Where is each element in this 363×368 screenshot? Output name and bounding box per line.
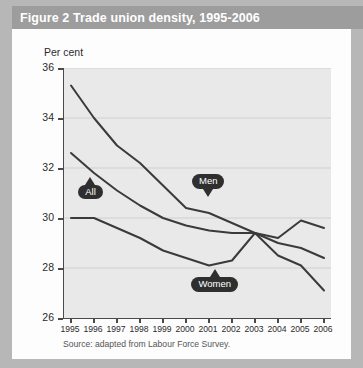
y-tick [58, 118, 63, 120]
callout-all: All [78, 177, 103, 200]
y-tick-label: 32 [32, 161, 54, 173]
x-tick [116, 318, 118, 323]
callout-men: Men [192, 174, 224, 197]
page-title: Figure 2 Trade union density, 1995-2006 [12, 11, 260, 25]
figure-title-band: Figure 2 Trade union density, 1995-2006 [12, 6, 363, 29]
x-tick [70, 318, 72, 323]
y-tick [58, 168, 63, 170]
x-tick [162, 318, 164, 323]
x-tick [139, 318, 141, 323]
callout-women: Women [191, 269, 238, 292]
y-tick-label: 34 [32, 111, 54, 123]
y-tick-label: 28 [32, 261, 54, 273]
x-tick [93, 318, 95, 323]
callout-label: All [78, 185, 103, 200]
figure-source: Source: adapted from Labour Force Survey… [63, 339, 230, 349]
y-tick [58, 218, 63, 220]
y-tick [58, 268, 63, 270]
callout-pointer-icon [210, 269, 220, 277]
x-tick-label: 2006 [309, 324, 337, 334]
x-tick [277, 318, 279, 323]
y-tick [58, 68, 63, 70]
x-tick [208, 318, 210, 323]
x-tick [185, 318, 187, 323]
y-tick [58, 318, 63, 320]
figure-root: Figure 2 Trade union density, 1995-2006 … [0, 0, 363, 368]
x-tick [323, 318, 325, 323]
x-tick [254, 318, 256, 323]
callout-label: Men [192, 174, 224, 189]
x-tick [300, 318, 302, 323]
y-axis-title: Per cent [44, 46, 83, 58]
callout-pointer-icon [203, 189, 213, 197]
callout-pointer-icon [85, 177, 95, 185]
y-tick-label: 26 [32, 311, 54, 323]
y-tick-label: 36 [32, 61, 54, 73]
x-tick [231, 318, 233, 323]
y-tick-label: 30 [32, 211, 54, 223]
series-line-all [71, 153, 324, 258]
callout-label: Women [191, 277, 238, 292]
